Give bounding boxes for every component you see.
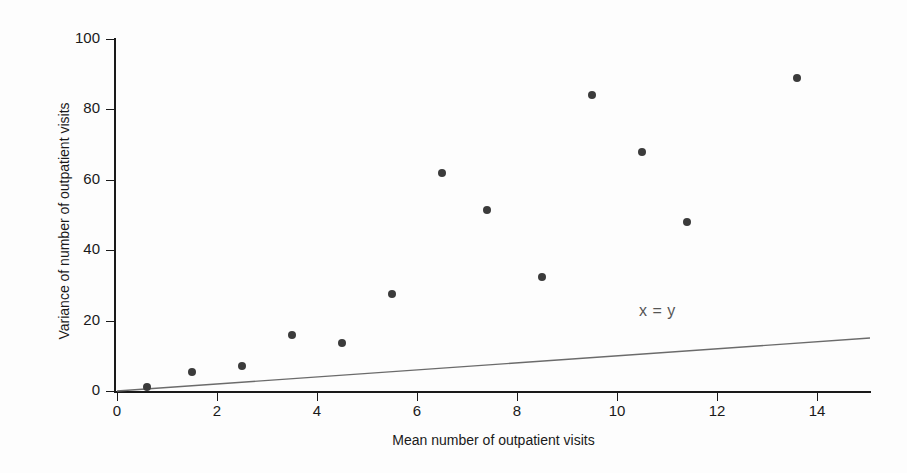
plot-area (117, 39, 870, 391)
x-tick-4 (317, 393, 318, 401)
y-tick-20 (106, 321, 115, 322)
x-tick-2 (217, 393, 218, 401)
scatter-plot-figure: 020406080100 Variance of number of outpa… (0, 0, 907, 473)
data-point (188, 368, 196, 376)
x-tick-label-12: 12 (697, 402, 737, 419)
y-tick-label-20: 20 (46, 311, 100, 328)
x-tick-label-8: 8 (497, 402, 537, 419)
x-tick-label-4: 4 (297, 402, 337, 419)
data-point (483, 206, 491, 214)
x-tick-label-2: 2 (197, 402, 237, 419)
y-tick-label-80: 80 (46, 99, 100, 116)
data-point (438, 169, 446, 177)
y-tick-100 (106, 39, 115, 40)
x-tick-10 (617, 393, 618, 401)
x-tick-8 (517, 393, 518, 401)
x-tick-0 (117, 393, 118, 401)
x-tick-12 (717, 393, 718, 401)
x-tick-14 (817, 393, 818, 401)
data-point (638, 148, 646, 156)
x-tick-label-14: 14 (797, 402, 837, 419)
y-tick-label-0: 0 (46, 381, 100, 398)
data-point (793, 74, 801, 82)
y-tick-label-60: 60 (46, 170, 100, 187)
identity-reference-line (117, 39, 870, 391)
x-axis-title: Mean number of outpatient visits (117, 432, 870, 448)
y-tick-40 (106, 250, 115, 251)
y-tick-80 (106, 109, 115, 110)
x-tick-label-10: 10 (597, 402, 637, 419)
data-point (538, 273, 546, 281)
data-point (683, 218, 691, 226)
x-tick-6 (417, 393, 418, 401)
x-axis-line (114, 391, 871, 393)
y-axis-title: Variance of number of outpatient visits (56, 26, 72, 416)
y-tick-60 (106, 180, 115, 181)
data-point (288, 331, 296, 339)
x-tick-label-0: 0 (97, 402, 137, 419)
y-axis-line (114, 38, 116, 393)
y-tick-label-100: 100 (46, 29, 100, 46)
identity-line-label: x = y (639, 302, 676, 320)
x-tick-label-6: 6 (397, 402, 437, 419)
y-tick-label-40: 40 (46, 240, 100, 257)
